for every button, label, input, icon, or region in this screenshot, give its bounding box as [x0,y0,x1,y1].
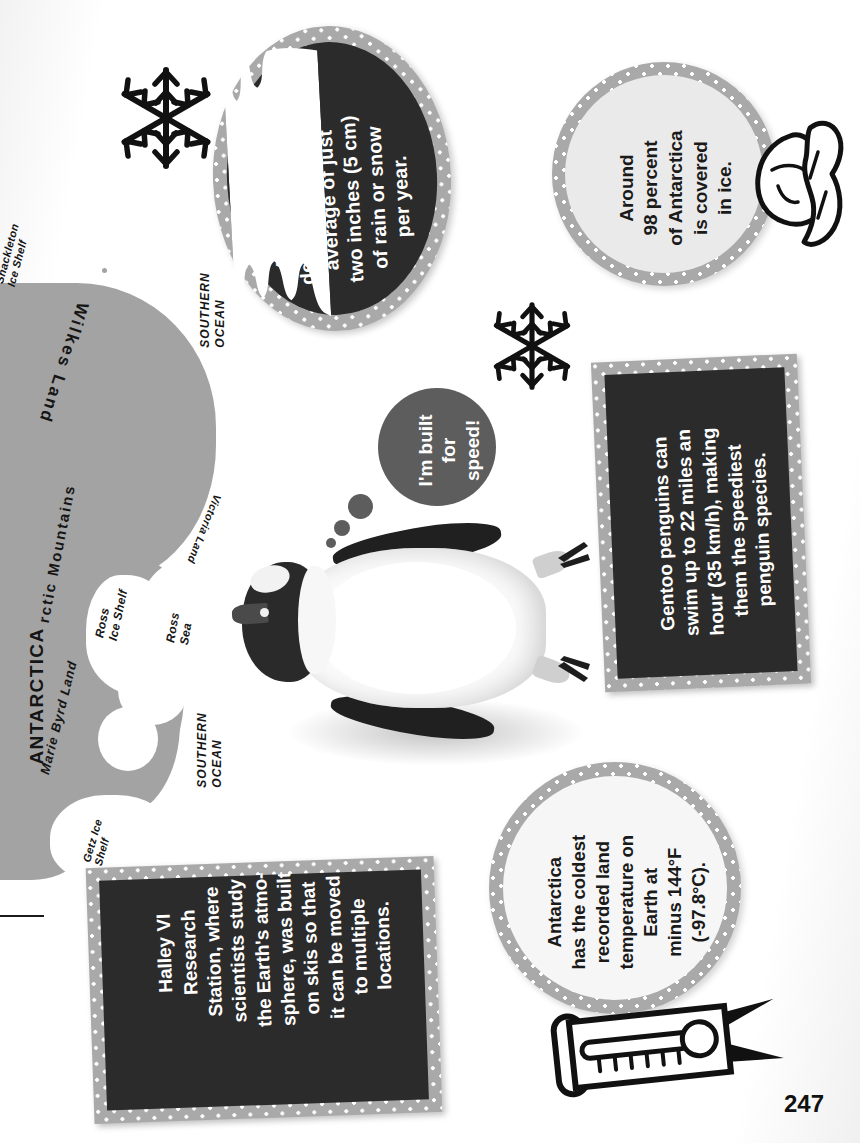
map-ice-dot-a [102,268,107,273]
fact-badge-gentoo-text: Gentoo penguins can swim up to 22 miles … [620,364,782,700]
iceberg-icon [748,118,860,253]
map-landmass-main [0,283,216,583]
speech-bubble: I'm built for speed! [378,388,496,506]
fact-badge-ice-cover: Around 98 percent of Antarctica is cover… [552,62,776,286]
map-coast-notch-b [98,707,158,771]
map-label-ross-sea: Ross Sea [164,611,196,646]
map-label-southern-ocean-top: SOUTHERN OCEAN [198,272,228,347]
bleed-mark [0,915,44,917]
penguin-eye [260,608,269,617]
fact-badge-desert-text: Antarctica is a desert—it gets an averag… [236,72,421,329]
fact-badge-coldest: Antarctica has the coldest recorded land… [489,762,741,1014]
penguin-photo [246,500,636,770]
map-ice-dot-b [52,869,59,875]
fact-badge-gentoo: Gentoo penguins can swim up to 22 miles … [591,354,811,693]
page-canvas: Shackleton Ice Shelf Wilkes Land SOUTHER… [0,0,860,1143]
speech-bubble-text: I'm built for speed! [391,387,484,513]
fact-badge-ice-cover-text: Around 98 percent of Antarctica is cover… [590,74,738,302]
snowflake-icon-top [116,62,216,174]
penguin-claws-lower [558,656,608,696]
penguin-belly [316,562,516,694]
thermometer-icon [538,988,800,1106]
fact-badge-halley-text: Halley VI Research Station, where scient… [124,817,400,1082]
snowflake-icon-middle [489,298,575,394]
page-number: 247 [784,1090,824,1118]
map-label-southern-ocean-bottom: SOUTHERN OCEAN [195,712,225,787]
fact-badge-halley: Halley VI Research Station, where scient… [86,856,443,1124]
antarctica-map: Shackleton Ice Shelf Wilkes Land SOUTHER… [0,255,255,905]
